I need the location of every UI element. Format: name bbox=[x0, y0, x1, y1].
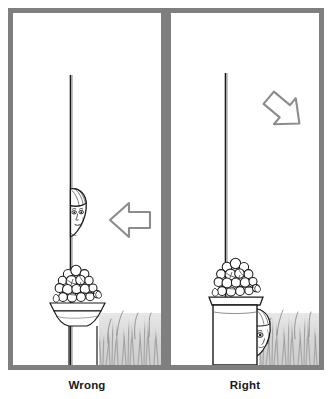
flower-cluster-icon bbox=[55, 265, 101, 302]
caption-row: Wrong Right bbox=[8, 376, 324, 398]
caption-wrong: Wrong bbox=[8, 376, 166, 398]
down-left-pointing-arrow-icon bbox=[258, 85, 310, 137]
left-pointing-arrow-icon bbox=[110, 203, 150, 237]
panel-wrong bbox=[8, 8, 166, 370]
panel-right bbox=[166, 8, 324, 370]
pedestal-planter bbox=[50, 265, 105, 365]
panel-right-artwork bbox=[171, 13, 319, 365]
caption-right: Right bbox=[166, 376, 324, 398]
person-head-peeking bbox=[71, 189, 87, 237]
flower-cluster-icon bbox=[214, 258, 260, 296]
panel-wrong-artwork bbox=[13, 13, 161, 365]
panel-row bbox=[8, 8, 324, 370]
box-planter bbox=[209, 258, 263, 365]
comparison-figure: Wrong Right bbox=[0, 0, 332, 399]
